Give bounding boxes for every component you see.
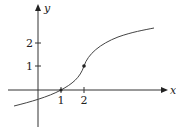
x-axis-label: x	[170, 84, 176, 97]
x-axis-arrow-icon	[161, 87, 168, 93]
point-1-0	[59, 88, 62, 91]
y-axis-arrow-icon	[35, 4, 41, 11]
y-tick-label-1: 1	[26, 60, 33, 73]
x-tick-label-1: 1	[58, 94, 65, 107]
point-2-1	[82, 64, 86, 68]
y-axis-label: y	[43, 2, 51, 15]
x-tick-label-2: 2	[81, 94, 88, 107]
function-graph: x y 1 2 1 2	[0, 0, 176, 135]
y-tick-label-2: 2	[26, 37, 33, 50]
